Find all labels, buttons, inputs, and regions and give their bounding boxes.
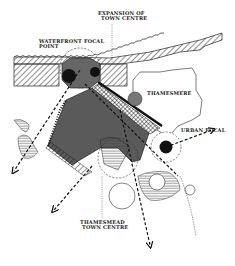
hatched-block-right [100, 64, 127, 86]
hatched-block-left [14, 64, 59, 86]
label-thamesmere: THAMESMERE [147, 90, 192, 96]
label-waterfront-line2: POINT [39, 43, 59, 49]
label-urban-focal: URBAN FOCAL [181, 127, 226, 133]
focal-point-dot [90, 67, 100, 77]
label-town-centre-line2: TOWN CENTRE [82, 224, 128, 230]
focal-point-dot [62, 69, 76, 83]
left-green-area [14, 119, 29, 132]
urban-plan-diagram: EXPANSION OF TOWN CENTRE WATERFRONT FOCA… [0, 0, 235, 266]
label-expansion-line2: TOWN CENTRE [101, 15, 147, 21]
thamesmere-node [128, 92, 142, 106]
